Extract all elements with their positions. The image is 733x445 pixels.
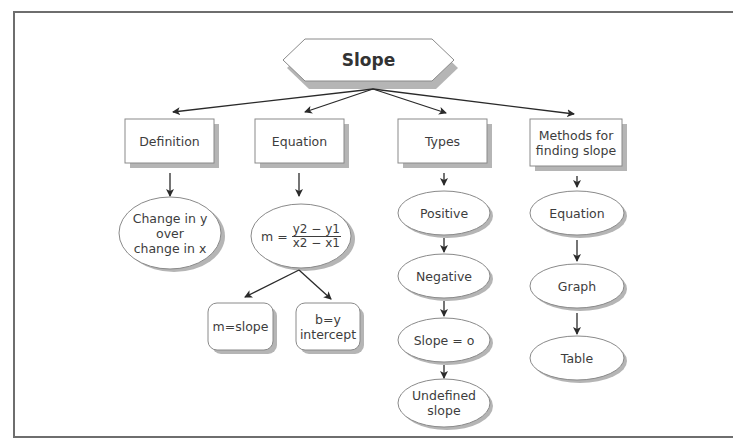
- type-undefined: Undefined slope: [398, 379, 490, 427]
- category-methods: Methods for finding slope: [530, 119, 622, 166]
- arrow-to-methods: [373, 89, 574, 114]
- formula-numerator: y2 − y1: [292, 223, 341, 237]
- definition-node: Change in y over change in x: [119, 197, 221, 269]
- title-label: Slope: [283, 39, 454, 81]
- undef-line1: Undefined: [412, 388, 476, 403]
- category-types: Types: [398, 119, 487, 163]
- formula-lhs: m =: [261, 229, 288, 244]
- type-negative: Negative: [398, 254, 490, 298]
- equation-split-connectors: [245, 270, 331, 299]
- method-equation: Equation: [530, 191, 624, 235]
- b-line2: intercept: [300, 327, 356, 342]
- b-line1: b=y: [315, 312, 341, 327]
- category-equation: Equation: [255, 119, 344, 163]
- type-slope-zero: Slope = o: [398, 318, 490, 362]
- def-line3: change in x: [134, 241, 207, 256]
- def-line2: over: [156, 226, 184, 241]
- box-connectors: [170, 173, 577, 196]
- m-slope-node: m=slope: [208, 303, 273, 350]
- method-table: Table: [530, 336, 624, 380]
- method-graph: Graph: [530, 264, 624, 308]
- formula-denominator: x2 − x1: [293, 237, 340, 250]
- main-connectors: [173, 89, 574, 114]
- equation-formula-node: m = y2 − y1 x2 − x1: [251, 204, 351, 268]
- b-intercept-node: b=y intercept: [296, 303, 360, 350]
- def-line1: Change in y: [133, 211, 208, 226]
- arrow-to-types: [373, 89, 446, 113]
- arrow-to-definition: [173, 89, 373, 112]
- formula-fraction: y2 − y1 x2 − x1: [292, 223, 341, 250]
- methods-line1: Methods for: [539, 128, 614, 143]
- type-positive: Positive: [398, 191, 490, 235]
- undef-line2: slope: [427, 403, 460, 418]
- methods-line2: finding slope: [536, 143, 616, 158]
- category-definition: Definition: [125, 119, 214, 163]
